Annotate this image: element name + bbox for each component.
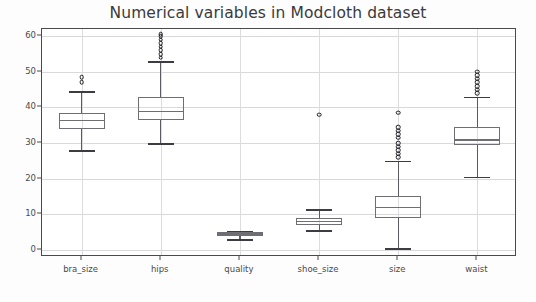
x-tick-label-size: size xyxy=(389,264,405,274)
x-tick-mark xyxy=(238,256,239,260)
y-tick-mark xyxy=(37,177,41,178)
chart-overlay: 0102030405060bra_sizehipsqualityshoe_siz… xyxy=(0,0,536,302)
x-tick-mark xyxy=(397,256,398,260)
x-tick-label-hips: hips xyxy=(151,264,169,274)
x-tick-label-waist: waist xyxy=(465,264,487,274)
x-tick-label-quality: quality xyxy=(224,264,253,274)
x-tick-label-bra_size: bra_size xyxy=(63,264,98,274)
y-tick-mark xyxy=(37,213,41,214)
y-tick-mark xyxy=(37,70,41,71)
y-tick-mark xyxy=(37,35,41,36)
x-tick-mark xyxy=(476,256,477,260)
x-tick-label-shoe_size: shoe_size xyxy=(298,264,339,274)
y-tick-mark xyxy=(37,248,41,249)
chart-canvas: Numerical variables in Modcloth dataset … xyxy=(0,0,536,302)
y-tick-mark xyxy=(37,106,41,107)
y-tick-mark xyxy=(37,142,41,143)
x-tick-mark xyxy=(318,256,319,260)
x-tick-mark xyxy=(80,256,81,260)
x-tick-mark xyxy=(159,256,160,260)
